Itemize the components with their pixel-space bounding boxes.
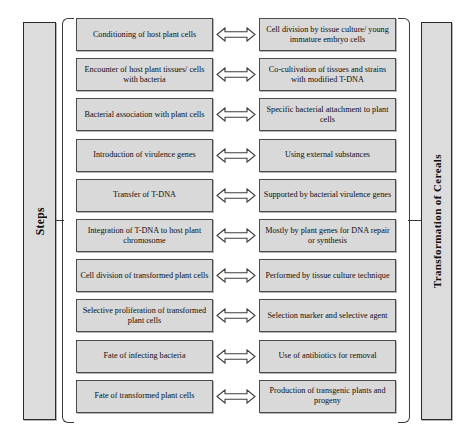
double-headed-arrow-icon (216, 26, 256, 43)
double-headed-arrow-icon (216, 267, 256, 284)
steps-label-box: Steps (23, 22, 56, 420)
double-headed-arrow-icon (216, 66, 256, 83)
arrow-cell (213, 58, 259, 91)
diagram-row: Transfer of T-DNASupported by bacterial … (76, 179, 396, 212)
detail-box[interactable]: Supported by bacterial virulence genes (259, 179, 396, 212)
detail-box[interactable]: Use of antibiotics for removal (259, 340, 396, 373)
transformation-of-cereals-diagram: Steps Transformation of Cereals Conditio… (0, 0, 472, 441)
arrow-cell (213, 219, 259, 252)
double-headed-arrow-icon (216, 106, 256, 123)
step-box[interactable]: Selective proliferation of transformed p… (76, 299, 213, 332)
double-headed-arrow-icon (216, 348, 256, 365)
detail-box[interactable]: Performed by tissue culture technique (259, 259, 396, 292)
diagram-row: Cell division of transformed plant cells… (76, 259, 396, 292)
double-headed-arrow-icon (216, 187, 256, 204)
arrow-cell (213, 98, 259, 131)
step-box[interactable]: Fate of transformed plant cells (76, 380, 213, 413)
step-box[interactable]: Encounter of host plant tissues/ cells w… (76, 58, 213, 91)
arrow-cell (213, 259, 259, 292)
arrow-cell (213, 380, 259, 413)
transformation-of-cereals-label-text: Transformation of Cereals (431, 154, 443, 288)
diagram-row: Integration of T-DNA to host plant chrom… (76, 219, 396, 252)
double-headed-arrow-icon (216, 307, 256, 324)
diagram-row: Bacterial association with plant cellsSp… (76, 98, 396, 131)
transformation-of-cereals-label-box: Transformation of Cereals (421, 22, 452, 420)
arrow-cell (213, 299, 259, 332)
arrow-cell (213, 179, 259, 212)
step-box[interactable]: Transfer of T-DNA (76, 179, 213, 212)
arrow-cell (213, 18, 259, 51)
detail-box[interactable]: Selection marker and selective agent (259, 299, 396, 332)
step-box[interactable]: Fate of infecting bacteria (76, 340, 213, 373)
detail-box[interactable]: Mostly by plant genes for DNA repair or … (259, 219, 396, 252)
diagram-row: Fate of infecting bacteriaUse of antibio… (76, 340, 396, 373)
diagram-row: Selective proliferation of transformed p… (76, 299, 396, 332)
steps-label-text: Steps (34, 207, 46, 235)
right-brace-connector (408, 220, 422, 221)
step-box[interactable]: Integration of T-DNA to host plant chrom… (76, 219, 213, 252)
diagram-row: Conditioning of host plant cellsCell div… (76, 18, 396, 51)
step-box[interactable]: Introduction of virulence genes (76, 139, 213, 172)
arrow-cell (213, 139, 259, 172)
detail-box[interactable]: Specific bacterial attachment to plant c… (259, 98, 396, 131)
diagram-row: Encounter of host plant tissues/ cells w… (76, 58, 396, 91)
detail-box[interactable]: Cell division by tissue culture/ young i… (259, 18, 396, 51)
diagram-row: Introduction of virulence genesUsing ext… (76, 139, 396, 172)
detail-box[interactable]: Co-cultivation of tissues and strains wi… (259, 58, 396, 91)
double-headed-arrow-icon (216, 227, 256, 244)
double-headed-arrow-icon (216, 147, 256, 164)
arrow-cell (213, 340, 259, 373)
step-box[interactable]: Bacterial association with plant cells (76, 98, 213, 131)
step-box[interactable]: Conditioning of host plant cells (76, 18, 213, 51)
left-brace-connector (56, 220, 64, 221)
double-headed-arrow-icon (216, 388, 256, 405)
detail-box[interactable]: Production of transgenic plants and prog… (259, 380, 396, 413)
detail-box[interactable]: Using external substances (259, 139, 396, 172)
step-box[interactable]: Cell division of transformed plant cells (76, 259, 213, 292)
diagram-row: Fate of transformed plant cellsProductio… (76, 380, 396, 413)
